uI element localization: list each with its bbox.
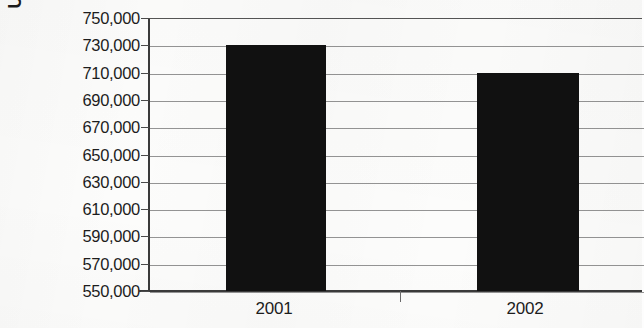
- plot-area: [148, 18, 642, 291]
- y-axis-tick-mark: [141, 127, 149, 128]
- y-axis-tick-label: 610,000: [36, 201, 140, 218]
- x-axis-category-label: 2001: [214, 299, 334, 319]
- y-axis-tick-label-group: 750,000730,000710,000690,000670,000650,0…: [36, 0, 140, 328]
- y-axis-tick-mark: [141, 45, 149, 46]
- y-axis-tick-mark: [141, 100, 149, 101]
- y-axis-tick-label: 690,000: [36, 92, 140, 109]
- y-axis-tick-mark: [141, 18, 149, 19]
- y-axis-tick-label: 650,000: [36, 147, 140, 164]
- y-axis-tick-mark: [141, 73, 149, 74]
- y-axis-tick-mark: [141, 264, 149, 265]
- bar: [477, 73, 579, 291]
- y-axis-tick-label: 730,000: [36, 37, 140, 54]
- y-axis-tick-label: 590,000: [36, 228, 140, 245]
- y-axis-tick-mark: [141, 209, 149, 210]
- y-axis-tick-mark: [141, 182, 149, 183]
- y-axis-tick-label: 630,000: [36, 174, 140, 191]
- bar: [226, 45, 326, 291]
- y-axis-tick-label: 670,000: [36, 119, 140, 136]
- y-axis-title: U.S. Dollar (Thousands): [0, 0, 30, 48]
- x-axis-category-label: 2002: [465, 299, 585, 319]
- y-axis-tick-mark: [141, 291, 149, 292]
- y-axis-tick-label: 570,000: [36, 256, 140, 273]
- y-axis-tick-mark: [141, 155, 149, 156]
- y-axis-tick-label: 550,000: [36, 283, 140, 300]
- gridline: [150, 46, 644, 47]
- y-axis-tick-label: 710,000: [36, 65, 140, 82]
- x-axis-tick-mark: [400, 291, 401, 302]
- y-axis-tick-mark: [141, 236, 149, 237]
- y-axis-tick-label: 750,000: [36, 10, 140, 27]
